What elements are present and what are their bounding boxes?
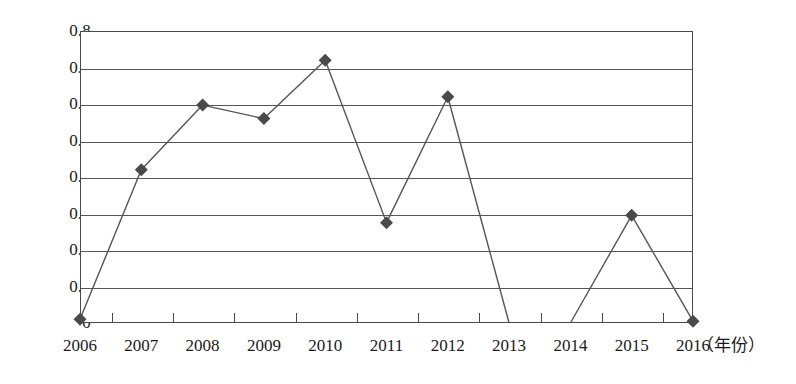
x-axis-tick-mark: [418, 313, 419, 322]
x-axis-tick-label: 2010: [290, 337, 360, 354]
gridline: [81, 251, 692, 252]
gridline: [81, 105, 692, 106]
x-axis-tick-label: 2007: [106, 337, 176, 354]
gridline: [81, 69, 692, 70]
line-chart: 0.80.70.60.50.40.30.20.10 20062007200820…: [0, 0, 796, 384]
x-axis-tick-label: 2013: [474, 337, 544, 354]
x-axis-tick-label: 2015: [597, 337, 667, 354]
x-axis-tick-mark: [173, 313, 174, 322]
x-axis-tick-mark: [602, 313, 603, 322]
x-axis-tick-label: 2009: [229, 337, 299, 354]
plot-area: [80, 31, 693, 323]
x-axis-title: （年份）: [697, 337, 765, 354]
x-axis-tick-label: 2014: [535, 337, 605, 354]
x-axis-tick-label: 2008: [168, 337, 238, 354]
x-axis-tick-mark: [234, 313, 235, 322]
x-axis-tick-mark: [296, 313, 297, 322]
x-axis-tick-mark: [112, 313, 113, 322]
x-axis-tick-label: 2006: [45, 337, 115, 354]
x-axis-tick-mark: [541, 313, 542, 322]
x-axis-tick-mark: [663, 313, 664, 322]
gridline: [81, 288, 692, 289]
gridline: [81, 178, 692, 179]
gridline: [81, 215, 692, 216]
x-axis-tick-label: 2012: [413, 337, 483, 354]
x-axis-tick-label: 2011: [352, 337, 422, 354]
gridline: [81, 142, 692, 143]
x-axis-tick-mark: [357, 313, 358, 322]
x-axis-tick-mark: [479, 313, 480, 322]
